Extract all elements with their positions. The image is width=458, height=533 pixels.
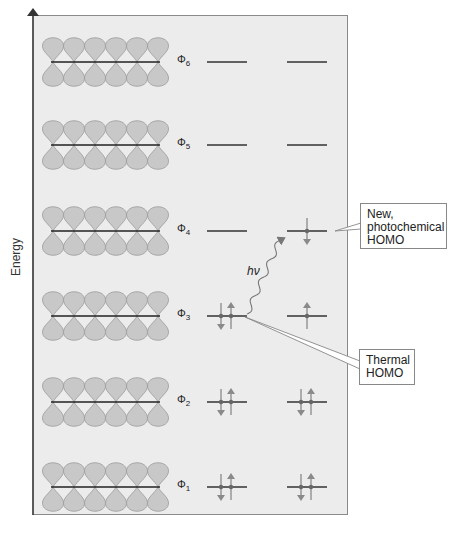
orbital-label-phi6: Φ6 bbox=[177, 53, 190, 68]
p-orbital-lobe-top bbox=[127, 378, 148, 402]
p-orbital-lobe-top bbox=[85, 207, 106, 231]
phi-symbol: Φ bbox=[177, 53, 186, 65]
p-orbital-lobe-top bbox=[127, 121, 148, 145]
callout-thermal-homo: Thermal HOMO bbox=[359, 349, 415, 385]
electron-dot bbox=[219, 400, 223, 404]
p-orbital-lobe-top bbox=[64, 207, 85, 231]
p-orbital-lobe-bottom bbox=[148, 487, 169, 511]
p-orbital-lobe-bottom bbox=[64, 402, 85, 426]
electron-dot bbox=[305, 229, 309, 233]
p-orbital-lobe-top bbox=[85, 463, 106, 487]
p-orbital-lobe-top bbox=[64, 378, 85, 402]
photon-energy-label: hν bbox=[247, 264, 260, 278]
electron-dot bbox=[229, 485, 233, 489]
p-orbital-lobe-top bbox=[43, 38, 64, 62]
p-orbital-lobe-top bbox=[106, 38, 127, 62]
p-orbital-lobe-bottom bbox=[43, 316, 64, 340]
p-orbital-lobe-top bbox=[64, 463, 85, 487]
phi-symbol: Φ bbox=[177, 307, 186, 319]
callout-pointer-thermal bbox=[245, 317, 360, 369]
p-orbital-lobe-bottom bbox=[127, 487, 148, 511]
orbital-label-phi3: Φ3 bbox=[177, 307, 190, 322]
p-orbital-lobe-bottom bbox=[106, 402, 127, 426]
p-orbital-lobe-bottom bbox=[127, 62, 148, 86]
p-orbital-lobe-top bbox=[85, 292, 106, 316]
p-orbital-lobe-top bbox=[106, 207, 127, 231]
diagram-stage: Energy hν Φ6Φ5Φ4Φ3Φ2Φ1 New, photochemica… bbox=[0, 0, 458, 533]
p-orbital-lobe-bottom bbox=[106, 145, 127, 169]
p-orbital-lobe-top bbox=[43, 463, 64, 487]
phi-subscript: 6 bbox=[186, 59, 190, 68]
p-orbital-lobe-bottom bbox=[106, 62, 127, 86]
p-orbital-lobe-bottom bbox=[85, 316, 106, 340]
p-orbital-lobe-top bbox=[85, 38, 106, 62]
p-orbital-lobe-top bbox=[85, 378, 106, 402]
p-orbital-lobe-bottom bbox=[43, 402, 64, 426]
p-orbital-lobe-bottom bbox=[127, 402, 148, 426]
electron-dot bbox=[309, 485, 313, 489]
p-orbital-lobe-top bbox=[106, 121, 127, 145]
phi-subscript: 4 bbox=[186, 228, 190, 237]
p-orbital-lobe-bottom bbox=[64, 316, 85, 340]
electron-dot bbox=[305, 314, 309, 318]
callout-pointer-photochemical bbox=[335, 223, 361, 231]
electron-dot bbox=[219, 485, 223, 489]
phi-subscript: 3 bbox=[186, 313, 190, 322]
p-orbital-lobe-bottom bbox=[148, 316, 169, 340]
electron-dot bbox=[299, 400, 303, 404]
phi-symbol: Φ bbox=[177, 478, 186, 490]
p-orbital-lobe-bottom bbox=[85, 231, 106, 255]
p-orbital-lobe-bottom bbox=[43, 62, 64, 86]
p-orbital-lobe-top bbox=[85, 121, 106, 145]
p-orbital-lobe-bottom bbox=[43, 487, 64, 511]
electron-dot bbox=[219, 314, 223, 318]
p-orbital-lobe-bottom bbox=[148, 145, 169, 169]
p-orbital-lobe-bottom bbox=[85, 402, 106, 426]
electron-dot bbox=[229, 314, 233, 318]
orbital-label-phi5: Φ5 bbox=[177, 136, 190, 151]
p-orbital-lobe-bottom bbox=[43, 145, 64, 169]
callout-line: HOMO bbox=[366, 367, 408, 380]
p-orbital-lobe-top bbox=[148, 121, 169, 145]
p-orbital-lobe-top bbox=[148, 292, 169, 316]
p-orbital-lobe-top bbox=[64, 38, 85, 62]
p-orbital-lobe-top bbox=[64, 121, 85, 145]
p-orbital-lobe-bottom bbox=[64, 62, 85, 86]
electron-dot bbox=[299, 485, 303, 489]
phi-symbol: Φ bbox=[177, 222, 186, 234]
p-orbital-lobe-top bbox=[127, 207, 148, 231]
p-orbital-lobe-top bbox=[43, 378, 64, 402]
p-orbital-lobe-top bbox=[106, 378, 127, 402]
p-orbital-lobe-bottom bbox=[148, 62, 169, 86]
p-orbital-lobe-top bbox=[43, 121, 64, 145]
phi-subscript: 2 bbox=[186, 399, 190, 408]
orbital-diagram-graphics: hν bbox=[0, 0, 458, 533]
p-orbital-lobe-top bbox=[127, 463, 148, 487]
electron-dot bbox=[309, 400, 313, 404]
p-orbital-lobe-bottom bbox=[64, 487, 85, 511]
callout-line: HOMO bbox=[367, 234, 440, 247]
p-orbital-lobe-bottom bbox=[148, 231, 169, 255]
p-orbital-lobe-top bbox=[64, 292, 85, 316]
p-orbital-lobe-top bbox=[106, 292, 127, 316]
p-orbital-lobe-bottom bbox=[148, 402, 169, 426]
p-orbital-lobe-top bbox=[148, 207, 169, 231]
orbital-label-phi4: Φ4 bbox=[177, 222, 190, 237]
p-orbital-lobe-top bbox=[127, 292, 148, 316]
p-orbital-lobe-bottom bbox=[127, 231, 148, 255]
p-orbital-lobe-bottom bbox=[85, 62, 106, 86]
phi-subscript: 1 bbox=[186, 484, 190, 493]
p-orbital-lobe-top bbox=[148, 463, 169, 487]
p-orbital-lobe-bottom bbox=[106, 231, 127, 255]
orbital-label-phi2: Φ2 bbox=[177, 393, 190, 408]
callout-photochemical-homo: New, photochemical HOMO bbox=[360, 203, 447, 249]
p-orbital-lobe-top bbox=[43, 207, 64, 231]
p-orbital-lobe-bottom bbox=[106, 316, 127, 340]
electron-dot bbox=[229, 400, 233, 404]
p-orbital-lobe-bottom bbox=[64, 231, 85, 255]
p-orbital-lobe-bottom bbox=[64, 145, 85, 169]
phi-subscript: 5 bbox=[186, 142, 190, 151]
phi-symbol: Φ bbox=[177, 393, 186, 405]
p-orbital-lobe-top bbox=[106, 463, 127, 487]
p-orbital-lobe-bottom bbox=[43, 231, 64, 255]
